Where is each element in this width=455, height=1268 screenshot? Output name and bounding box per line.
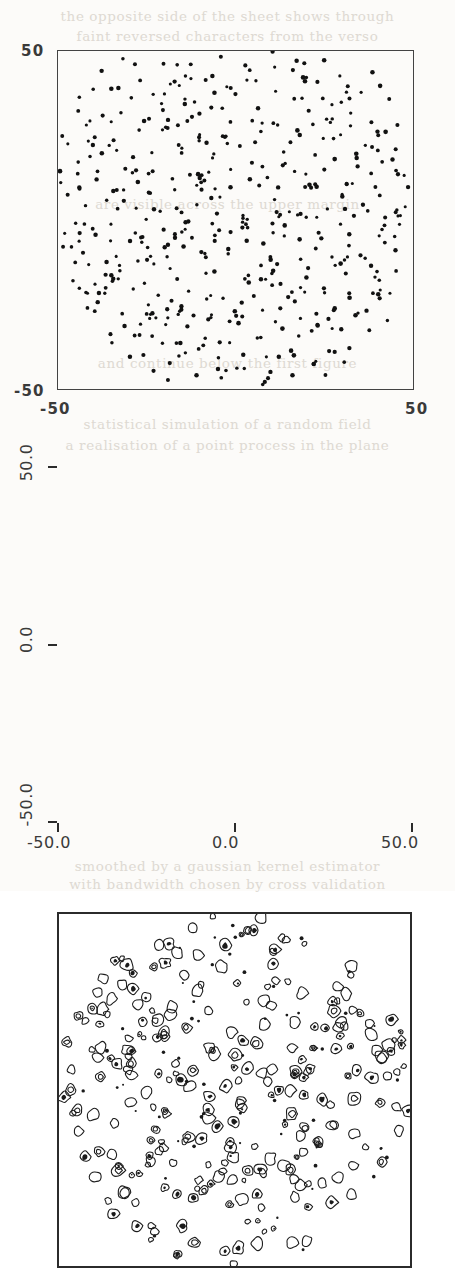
scatter-point (150, 151, 153, 154)
scatter-point (270, 51, 274, 54)
scatter-point (209, 294, 212, 297)
scatter-point (394, 169, 398, 173)
scatter-point (178, 341, 183, 346)
scatter-point (299, 317, 302, 320)
scatter-point (104, 286, 108, 290)
contour-ring-inner (313, 1047, 315, 1049)
scatter-point (148, 317, 151, 320)
contour-ring (375, 1098, 385, 1107)
contour-ring-inner (64, 1040, 71, 1044)
contour-ring (318, 1178, 326, 1188)
scatter-point (352, 214, 356, 218)
scatter-point (252, 294, 256, 298)
contour-ring (382, 1039, 395, 1052)
contour-ring-inner (96, 1149, 100, 1154)
scatter-point (198, 176, 202, 180)
contour-ring (205, 1006, 213, 1014)
scatter-point (268, 370, 272, 374)
scatter-point (158, 210, 161, 213)
contour-core (339, 1035, 342, 1037)
scatter-point (177, 313, 180, 316)
scatter-point (246, 218, 249, 221)
contour-core (177, 1077, 184, 1083)
scatter-point (278, 282, 282, 286)
contour-ring (167, 1077, 172, 1083)
scatter-point (266, 376, 270, 380)
contour-ring (193, 950, 204, 961)
scatter-point (383, 223, 387, 227)
scatter-point (199, 180, 203, 184)
scatter-point (154, 316, 157, 319)
scatter-point (183, 102, 187, 106)
scatter-point (314, 312, 318, 316)
scatter-point (93, 309, 97, 313)
scatter-point (197, 139, 200, 142)
scatter-point (151, 169, 155, 173)
scatter-point (314, 184, 319, 189)
scatter-point (241, 220, 244, 223)
scatter-points (58, 51, 413, 389)
scatter-point (314, 247, 318, 251)
scatter-point (289, 140, 293, 144)
scatter-point (122, 324, 126, 328)
contour-dot (158, 1115, 161, 1118)
scatter-point (317, 231, 321, 235)
scatter-point (94, 177, 98, 181)
scatter-point (378, 234, 381, 237)
contour-dot (164, 1177, 167, 1180)
scatter-point (369, 172, 373, 176)
scatter-point (148, 191, 152, 195)
scatter-point (219, 376, 223, 380)
contour-ring (188, 923, 197, 933)
scatter-point (240, 225, 244, 229)
contour-ring-inner (289, 1111, 296, 1118)
scatter-point (70, 245, 74, 249)
contour-ring (206, 1162, 211, 1168)
scatter-point (84, 204, 87, 207)
scatter-point (184, 351, 187, 354)
scatter-point (210, 74, 215, 79)
contour-ring (195, 1176, 204, 1184)
scatter-point (331, 327, 334, 330)
scatter-point (273, 198, 276, 201)
scatter-point (59, 181, 62, 184)
scatter-point (379, 288, 382, 291)
contour-ring-inner (192, 1240, 199, 1245)
scatter-point (111, 189, 115, 193)
scatter-point (248, 177, 253, 182)
scatter-point (78, 240, 81, 243)
scatter-point (152, 262, 155, 265)
scatter-point (301, 75, 306, 80)
scatter-point (339, 223, 342, 226)
scatter-point (306, 266, 310, 270)
scatter-point (169, 267, 172, 270)
contour-dot (272, 985, 275, 988)
scatter-point (380, 160, 384, 164)
contour-ring (290, 1175, 300, 1184)
scatter-point (175, 341, 179, 345)
scatter-point (135, 207, 138, 210)
scatter-point (104, 260, 109, 265)
scatter-point (300, 97, 303, 100)
scatter-point (93, 283, 96, 286)
scatter-point (229, 168, 232, 171)
contour-ring (278, 1160, 291, 1172)
contour-ring-inner (202, 1188, 207, 1193)
scatter-point (184, 74, 187, 77)
contour-core (164, 960, 168, 964)
contour-ring (110, 1118, 118, 1128)
scatter-point (404, 205, 407, 208)
scatter-point (178, 309, 181, 312)
scatter-point (373, 275, 376, 278)
scatter-point (76, 160, 80, 164)
scatter-point (216, 367, 220, 371)
scatter-point (366, 209, 370, 213)
scatter-point (319, 236, 323, 240)
contour-dot (372, 1175, 376, 1179)
scatter-point (346, 255, 349, 258)
scatter-point (212, 152, 215, 155)
scatter-point (355, 164, 359, 168)
scatter-point (295, 128, 300, 133)
contour-dot (197, 1020, 200, 1023)
